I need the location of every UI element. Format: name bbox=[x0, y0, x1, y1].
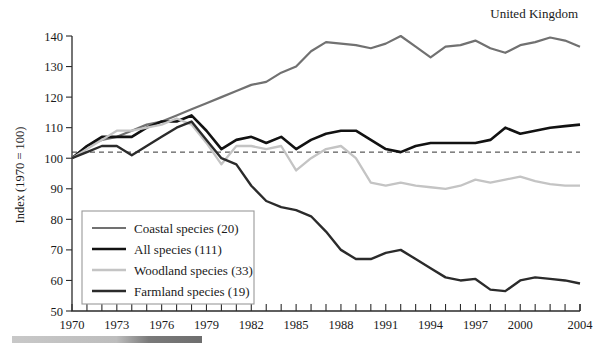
y-tick-label: 60 bbox=[51, 274, 64, 288]
y-tick-label: 110 bbox=[45, 121, 63, 135]
x-tick-label: 2000 bbox=[508, 318, 533, 332]
x-tick-label: 1994 bbox=[418, 318, 444, 332]
series-line-coastal bbox=[72, 36, 580, 158]
x-tick-label: 1979 bbox=[194, 318, 219, 332]
x-tick-label: 1982 bbox=[239, 318, 264, 332]
x-tick-label: 1991 bbox=[373, 318, 398, 332]
x-tick-label: 1970 bbox=[60, 318, 85, 332]
x-tick-label: 1985 bbox=[284, 318, 309, 332]
x-tick-label: 2004 bbox=[568, 318, 594, 332]
y-tick-labels: 5060708090100110120130140 bbox=[44, 30, 63, 319]
y-tick-label: 90 bbox=[51, 182, 64, 196]
x-tick-label: 1976 bbox=[149, 318, 174, 332]
legend-label: All species (111) bbox=[134, 242, 222, 257]
y-axis-title: Index (1970 = 100) bbox=[13, 127, 27, 224]
x-tick-label: 1988 bbox=[328, 318, 353, 332]
x-tick-labels: 1970197319761979198219851988199119941997… bbox=[60, 318, 594, 332]
legend-label: Farmland species (19) bbox=[134, 284, 250, 299]
legend-label: Coastal species (20) bbox=[134, 221, 239, 236]
x-tick-label: 1997 bbox=[463, 318, 488, 332]
y-tick-label: 140 bbox=[44, 30, 63, 44]
y-tick-label: 100 bbox=[44, 152, 63, 166]
y-tick-label: 130 bbox=[44, 60, 63, 74]
page-edge-artifact bbox=[12, 336, 202, 343]
region-label: United Kingdom bbox=[490, 6, 578, 21]
y-tick-label: 70 bbox=[51, 243, 64, 257]
chart-page: 5060708090100110120130140 19701973197619… bbox=[0, 0, 614, 346]
chart-legend: Coastal species (20)All species (111)Woo… bbox=[82, 211, 254, 304]
y-tick-label: 50 bbox=[51, 305, 64, 319]
y-tick-label: 80 bbox=[51, 213, 64, 227]
legend-label: Woodland species (33) bbox=[134, 263, 253, 278]
x-tick-label: 1973 bbox=[104, 318, 129, 332]
line-chart: 5060708090100110120130140 19701973197619… bbox=[0, 0, 614, 346]
y-tick-label: 120 bbox=[44, 91, 63, 105]
